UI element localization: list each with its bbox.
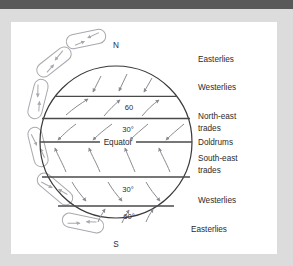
latitude-label-60s: 60° [123,212,134,221]
label-polar-easterlies-south: Easterlies [191,225,227,234]
label-south-east-trades-line1: South-east [198,154,238,163]
hadley-cell-north [26,78,49,120]
ferrel-cell-north [34,44,74,80]
circulation-diagram: N 60 30° Equator 30° 60° S Easterlies We… [0,0,293,266]
latitude-label-30n: 30° [122,125,133,134]
label-north-east-trades-line1: North-east [198,112,237,121]
label-polar-easterlies-north: Easterlies [198,55,234,64]
arrows-westerlies-north [66,99,159,116]
label-south-east-trades-line2: trades [198,166,221,175]
arrows-westerlies-south [72,182,160,201]
hadley-cell-south [26,126,49,168]
latitude-lines [40,96,192,206]
polar-cell-south [61,212,105,234]
label-north-east-trades-line2: trades [198,124,221,133]
label-doldrums: Doldrums [198,138,233,147]
polar-cell-north [65,28,107,50]
arrows-polar-easterlies-north [93,74,152,92]
label-westerlies-south: Westerlies [198,196,236,205]
pole-south-label: S [113,240,119,249]
latitude-label-60n: 60 [125,103,133,112]
pole-north-label: N [113,41,119,50]
latitude-label-30s: 30° [122,185,133,194]
equator-label: Equator [104,138,133,147]
label-westerlies-north: Westerlies [198,83,236,92]
arrows-south-east-trades [55,148,170,172]
